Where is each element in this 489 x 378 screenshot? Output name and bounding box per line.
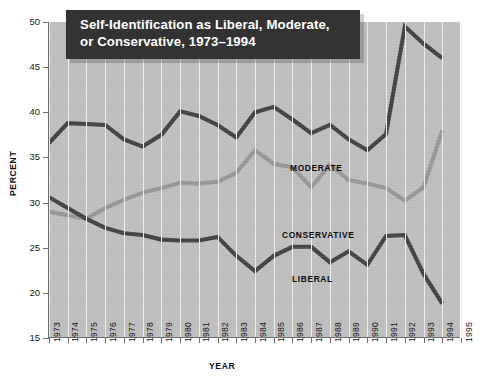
x-axis-tick-label: 1989 xyxy=(351,322,361,342)
x-axis-tick-label: 1979 xyxy=(164,322,174,342)
x-axis-tick-label: 1975 xyxy=(89,322,99,342)
x-axis-tick-label: 1986 xyxy=(295,322,305,342)
x-axis-tick-label: 1988 xyxy=(333,322,343,342)
x-axis-tick-label: 1992 xyxy=(407,322,417,342)
x-axis-tick-label: 1993 xyxy=(426,322,436,342)
y-axis-tick-label: 45 xyxy=(18,61,40,72)
x-axis-tick-label: 1973 xyxy=(52,322,62,342)
x-axis-tick-label: 1976 xyxy=(108,322,118,342)
x-axis-title: YEAR xyxy=(209,361,235,371)
x-axis-tick-label: 1985 xyxy=(276,322,286,342)
y-axis-title: PERCENT xyxy=(8,151,18,196)
x-axis-tick-label: 1978 xyxy=(145,322,155,342)
y-axis-tick-label: 25 xyxy=(18,242,40,253)
x-axis-tick-label: 1982 xyxy=(220,322,230,342)
x-axis-tick-label: 1980 xyxy=(183,322,193,342)
x-axis-tick-label: 1990 xyxy=(370,322,380,342)
x-axis-tick-label: 1983 xyxy=(239,322,249,342)
y-axis-tick-label: 50 xyxy=(18,16,40,27)
y-axis-tick-label: 20 xyxy=(18,287,40,298)
x-axis-tick-label: 1981 xyxy=(201,322,211,342)
y-axis-tick-label: 30 xyxy=(18,197,40,208)
x-axis-tick-label: 1995 xyxy=(464,322,474,342)
chart-figure: MODERATE CONSERVATIVE LIBERAL Self-Ident… xyxy=(0,0,489,378)
x-axis-tick-label: 1984 xyxy=(258,322,268,342)
x-axis-tick-label: 1977 xyxy=(127,322,137,342)
x-axis-tick-label: 1974 xyxy=(70,322,80,342)
y-axis-tick-label: 35 xyxy=(18,151,40,162)
y-axis-tick-label: 15 xyxy=(18,332,40,343)
x-axis-tick-label: 1994 xyxy=(445,322,455,342)
x-axis-tick-label: 1987 xyxy=(314,322,324,342)
y-axis-tick-label: 40 xyxy=(18,106,40,117)
x-axis-tick-label: 1991 xyxy=(389,322,399,342)
